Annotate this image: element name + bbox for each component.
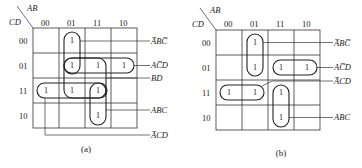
col-header: 11 xyxy=(93,18,101,28)
term-label: A̅BC̅ xyxy=(333,38,351,48)
karnaugh-maps-figure: AB CD 00 01 11 10 00 01 11 10 1 1 1 1 1 … xyxy=(0,0,362,168)
caption: (a) xyxy=(81,144,91,154)
cell-value: 1 xyxy=(96,111,100,120)
col-header: 00 xyxy=(224,19,233,29)
leader-line xyxy=(262,81,333,86)
col-header: 01 xyxy=(67,18,76,28)
cell-value: 1 xyxy=(70,86,74,95)
col-var-label: AB xyxy=(209,5,220,15)
col-var-label: AB xyxy=(26,3,37,13)
term-label: A̅CD xyxy=(150,130,169,140)
cell-value: 1 xyxy=(279,88,283,97)
term-label: ABC xyxy=(150,105,167,115)
row-header: 01 xyxy=(19,61,28,71)
col-header: 11 xyxy=(276,19,284,29)
row-header: 00 xyxy=(202,38,211,48)
cell-value: 1 xyxy=(70,36,74,45)
row-var-label: CD xyxy=(9,17,22,27)
cell-value: 1 xyxy=(96,61,100,70)
kmap-b: AB CD 00 01 11 10 00 01 11 10 1 1 1 1 1 … xyxy=(192,5,352,158)
term-label: A̅CD xyxy=(333,76,352,86)
cell-value: 1 xyxy=(122,61,126,70)
term-label: ABC xyxy=(333,112,350,122)
row-header: 00 xyxy=(19,36,28,46)
row-header: 10 xyxy=(19,111,28,121)
cell-value: 1 xyxy=(305,63,309,72)
cell-value: 1 xyxy=(253,88,257,97)
caption: (b) xyxy=(276,148,287,158)
row-header: 01 xyxy=(202,63,211,73)
row-header: 11 xyxy=(19,86,27,96)
term-label: A̅BC̅ xyxy=(150,36,168,46)
col-header: 10 xyxy=(302,19,311,29)
row-header: 10 xyxy=(202,113,211,123)
cell-value: 1 xyxy=(96,86,100,95)
cell-value: 1 xyxy=(70,61,74,70)
cell-value: 1 xyxy=(279,63,283,72)
row-header: 11 xyxy=(202,88,210,98)
term-label: BD xyxy=(151,73,163,83)
kmap-a: AB CD 00 01 11 10 00 01 11 10 1 1 1 1 1 … xyxy=(9,3,169,154)
row-var-label: CD xyxy=(192,19,205,29)
col-header: 10 xyxy=(119,18,128,28)
kmap-grid xyxy=(216,30,320,130)
term-label: AC̅D xyxy=(333,62,352,72)
cell-value: 1 xyxy=(44,86,48,95)
cell-value: 1 xyxy=(253,38,257,47)
cell-value: 1 xyxy=(279,113,283,122)
cell-value: 1 xyxy=(227,88,231,97)
col-header: 00 xyxy=(41,18,50,28)
cell-value: 1 xyxy=(253,63,257,72)
term-label: AC̅D xyxy=(150,60,169,70)
col-header: 01 xyxy=(250,19,259,29)
